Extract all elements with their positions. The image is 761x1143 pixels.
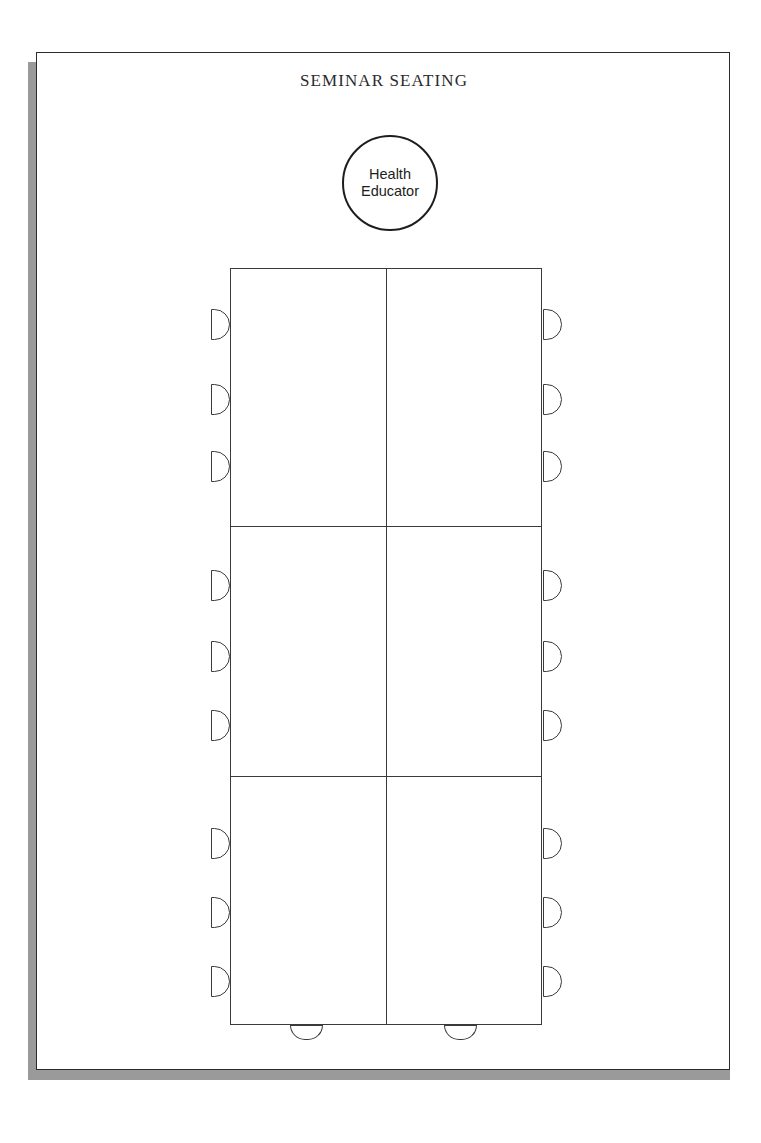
health-educator-seat[interactable]: Health Educator [342,135,438,231]
chair-right-seat-7[interactable] [543,828,562,859]
health-educator-label: Health Educator [361,166,419,200]
chair-left-seat-3[interactable] [211,451,230,482]
paper-sheet: SEMINAR SEATING Health Educator [36,52,730,1070]
chair-left-seat-6[interactable] [211,710,230,741]
chair-right-seat-1[interactable] [543,309,562,340]
chair-left-seat-7[interactable] [211,828,230,859]
chair-left-seat-4[interactable] [211,570,230,601]
chair-right-seat-3[interactable] [543,451,562,482]
seating-diagram-page: SEMINAR SEATING Health Educator [0,0,761,1143]
page-title: SEMINAR SEATING [37,71,731,91]
table-divider-vertical-1 [386,268,387,1025]
chair-right-seat-5[interactable] [543,641,562,672]
chair-right-seat-6[interactable] [543,710,562,741]
chair-left-seat-1[interactable] [211,309,230,340]
chair-left-seat-8[interactable] [211,897,230,928]
chair-right-seat-9[interactable] [543,966,562,997]
chair-right-seat-4[interactable] [543,570,562,601]
chair-bottom-seat-2[interactable] [444,1025,477,1040]
chair-bottom-seat-1[interactable] [290,1025,323,1040]
chair-right-seat-8[interactable] [543,897,562,928]
seminar-table-block [230,268,542,1025]
chair-right-seat-2[interactable] [543,384,562,415]
chair-left-seat-5[interactable] [211,641,230,672]
chair-left-seat-9[interactable] [211,966,230,997]
chair-left-seat-2[interactable] [211,384,230,415]
